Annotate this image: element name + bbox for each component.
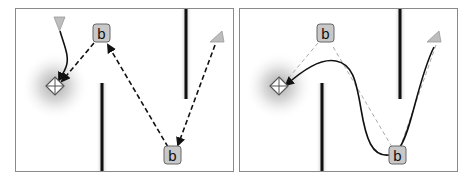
- wall-lower: [316, 83, 328, 172]
- beacon-bottom: b: [389, 146, 406, 164]
- start-triangle-icon: [210, 31, 224, 42]
- beacon-top: b: [93, 24, 110, 42]
- beacon-top: b: [317, 24, 334, 42]
- wall-upper: [180, 9, 192, 99]
- agent-triangle-icon: [54, 17, 65, 31]
- start-triangle-icon: [427, 31, 441, 42]
- beacon-bottom: b: [164, 146, 181, 164]
- svg-text:b: b: [321, 25, 329, 42]
- wall-upper: [394, 9, 406, 99]
- panel-left-beacon-path: b b: [15, 8, 234, 172]
- svg-text:b: b: [168, 147, 176, 164]
- left-diagram-canvas: b b: [16, 9, 234, 172]
- svg-text:b: b: [393, 147, 401, 164]
- panel-right-smoothed-path: b b: [239, 8, 458, 172]
- wall-lower: [96, 83, 108, 172]
- right-diagram-canvas: b b: [240, 9, 458, 172]
- svg-text:b: b: [97, 25, 105, 42]
